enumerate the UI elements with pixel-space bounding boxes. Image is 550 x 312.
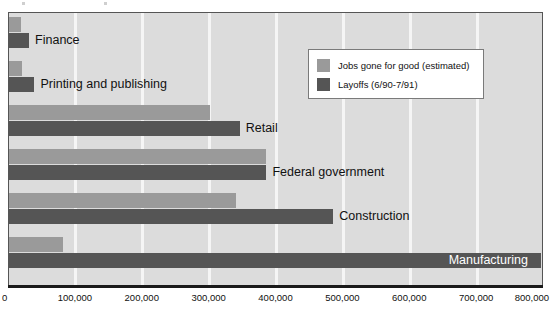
gridline: [543, 13, 544, 285]
x-tick-label: 300,000: [191, 292, 225, 303]
bar: [9, 121, 240, 136]
x-tick-label: 100,000: [58, 292, 92, 303]
x-axis-tick-labels: 0100,000200,000300,000400,000500,000600,…: [0, 292, 550, 310]
category-label: Printing and publishing: [40, 78, 166, 91]
bar: [9, 33, 29, 48]
bar: [9, 17, 21, 32]
bar: [9, 105, 210, 120]
bar-group: Construction: [9, 193, 542, 224]
x-axis-line: [8, 285, 543, 288]
category-label: Finance: [35, 34, 79, 47]
category-label: Retail: [246, 122, 278, 135]
scan-artifact: [104, 2, 107, 5]
bar-group: Finance: [9, 17, 542, 48]
bar: [9, 165, 266, 180]
category-label: Construction: [339, 210, 409, 223]
legend-swatch-icon: [317, 59, 330, 72]
x-tick-label: 400,000: [258, 292, 292, 303]
x-tick-label: 700,000: [459, 292, 493, 303]
bar: [9, 61, 22, 76]
x-tick-label: 500,000: [325, 292, 359, 303]
legend-item: Layoffs (6/90-7/91): [317, 75, 483, 93]
bar-group: Retail: [9, 105, 542, 136]
x-tick-label: 0: [2, 292, 7, 303]
scan-artifact: [22, 2, 25, 5]
chart-legend: Jobs gone for good (estimated) Layoffs (…: [308, 49, 484, 99]
legend-item: Jobs gone for good (estimated): [317, 56, 483, 74]
bar: [9, 237, 63, 252]
bar-group: Manufacturing: [9, 237, 542, 268]
legend-label: Layoffs (6/90-7/91): [338, 79, 418, 90]
x-tick-label: 800,000: [515, 292, 549, 303]
bar-group: Federal government: [9, 149, 542, 180]
bar: [9, 209, 333, 224]
bar-chart: FinancePrinting and publishingRetailFede…: [0, 0, 550, 312]
bar: [9, 149, 266, 164]
category-label: Manufacturing: [449, 254, 528, 267]
category-label: Federal government: [272, 166, 384, 179]
legend-swatch-icon: [317, 78, 330, 91]
bar: [9, 193, 236, 208]
bar: [9, 77, 34, 92]
x-tick-label: 600,000: [392, 292, 426, 303]
x-tick-label: 200,000: [125, 292, 159, 303]
legend-label: Jobs gone for good (estimated): [338, 60, 470, 71]
